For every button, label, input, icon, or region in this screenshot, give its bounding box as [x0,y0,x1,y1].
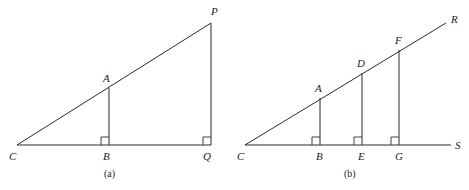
label-e: E [357,150,365,162]
label-a: A [102,72,110,84]
caption-a: (a) [104,168,115,180]
caption-b: (b) [344,168,356,180]
label-q: Q [203,150,211,162]
figure-a: C B Q A P (a) [9,5,218,180]
label-s: S [455,139,461,151]
similar-triangles-diagram: C B Q A P (a) C B E G S A D F R (b) [0,0,469,190]
right-angle-marker-e [354,137,362,145]
label-b: B [316,150,323,162]
right-angle-marker-b [101,137,109,145]
label-f: F [394,34,402,46]
label-g: G [395,150,403,162]
label-p: P [210,5,218,17]
label-r: R [450,13,458,25]
hypotenuse-cp [17,23,211,145]
ray-cr [245,23,446,145]
label-a: A [314,82,322,94]
figure-b: C B E G S A D F R (b) [237,13,461,180]
label-d: D [356,57,365,69]
label-c: C [9,150,17,162]
right-angle-marker-g [391,137,399,145]
right-angle-marker-q [203,137,211,145]
label-c: C [237,150,245,162]
label-b: B [103,150,110,162]
right-angle-marker-b [312,137,320,145]
